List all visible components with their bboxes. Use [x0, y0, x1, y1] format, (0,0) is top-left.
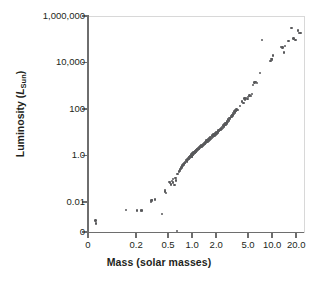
y-tick-label: 1,000,000 — [43, 11, 85, 21]
y-tick-label: 1.0 — [72, 150, 85, 160]
data-point — [136, 209, 138, 211]
data-point — [154, 198, 156, 200]
x-tick-mark — [215, 232, 217, 238]
y-axis-title-prefix: Luminosity ( — [14, 95, 26, 157]
data-point — [175, 179, 177, 181]
data-point — [173, 184, 175, 186]
data-point — [283, 51, 285, 53]
data-point — [252, 84, 254, 86]
data-point — [271, 58, 273, 60]
data-point — [284, 45, 286, 47]
data-point — [141, 209, 143, 211]
x-tick-mark — [167, 232, 169, 238]
x-tick-mark — [135, 232, 137, 238]
x-tick-mark — [271, 232, 273, 238]
y-axis-title-symbol: L — [14, 88, 26, 94]
data-point — [294, 39, 296, 41]
data-point — [95, 222, 97, 224]
data-point — [125, 209, 127, 211]
data-point — [287, 40, 289, 42]
y-axis-title: Luminosity (LSun) — [14, 24, 26, 204]
data-point — [272, 54, 274, 56]
y-tick-label: 10,000 — [56, 57, 85, 67]
y-axis-title-subscript: Sun — [19, 74, 28, 88]
x-tick-label: 0.5 — [161, 240, 174, 250]
x-tick-label: 5.0 — [241, 240, 254, 250]
x-tick-mark — [295, 232, 297, 238]
data-point — [180, 166, 182, 168]
data-point — [261, 39, 263, 41]
data-point — [251, 93, 253, 95]
data-point — [176, 173, 178, 175]
data-point — [239, 105, 241, 107]
data-point — [165, 192, 167, 194]
x-tick-label: 20.0 — [287, 240, 306, 250]
data-point — [161, 213, 163, 215]
x-tick-label: 1.0 — [186, 240, 199, 250]
x-axis-title: Mass (solar masses) — [0, 256, 318, 268]
mass-luminosity-scatter-figure: 1,000,00010,0001001.00.010 00.20.51.02.0… — [0, 0, 318, 287]
data-point — [236, 109, 238, 111]
x-tick-mark — [191, 232, 193, 238]
data-point — [242, 102, 244, 104]
x-tick-mark — [247, 232, 249, 238]
x-tick-label: 0.2 — [130, 240, 143, 250]
y-tick-label: 100 — [69, 104, 85, 114]
data-point — [290, 27, 292, 29]
x-tick-label: 2.0 — [210, 240, 223, 250]
x-tick-mark — [87, 232, 89, 238]
x-tick-label: 10.0 — [263, 240, 282, 250]
data-point — [250, 95, 252, 97]
x-tick-label: 0 — [85, 240, 90, 250]
data-point — [164, 189, 166, 191]
plot-area — [88, 16, 305, 233]
data-point — [256, 82, 258, 84]
data-point — [299, 32, 301, 34]
data-point — [259, 72, 261, 74]
y-tick-label: 0.01 — [67, 197, 86, 207]
y-tick-label: 0 — [80, 227, 85, 237]
data-point — [179, 170, 181, 172]
